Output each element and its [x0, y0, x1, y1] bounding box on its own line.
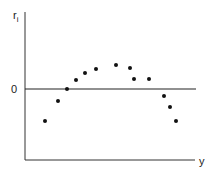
- data-point: [56, 99, 60, 103]
- data-point: [168, 105, 172, 109]
- data-points: [43, 63, 178, 123]
- data-point: [147, 77, 151, 81]
- data-point: [83, 71, 87, 75]
- data-point: [65, 87, 69, 91]
- data-point: [174, 119, 178, 123]
- zero-tick-label: 0: [11, 83, 17, 95]
- x-axis-label: y: [199, 155, 205, 167]
- data-point: [132, 77, 136, 81]
- data-point: [43, 119, 47, 123]
- y-axis-label: ri: [13, 9, 19, 24]
- residual-plot: ri 0 y: [0, 0, 210, 174]
- data-point: [94, 67, 98, 71]
- data-point: [74, 78, 78, 82]
- data-point: [128, 66, 132, 70]
- data-point: [114, 63, 118, 67]
- data-point: [162, 94, 166, 98]
